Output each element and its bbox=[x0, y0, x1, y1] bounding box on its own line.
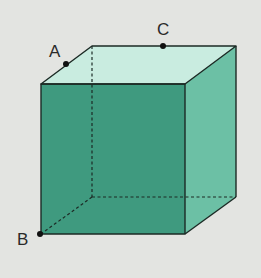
label-c: C bbox=[157, 20, 169, 39]
front-face bbox=[41, 84, 185, 234]
label-a: A bbox=[49, 42, 61, 61]
point-b bbox=[37, 231, 43, 237]
cube-svg: A B C bbox=[0, 0, 261, 278]
point-a bbox=[63, 61, 69, 67]
point-c bbox=[160, 43, 166, 49]
cube-diagram: A B C bbox=[0, 0, 261, 278]
label-b: B bbox=[17, 230, 28, 249]
